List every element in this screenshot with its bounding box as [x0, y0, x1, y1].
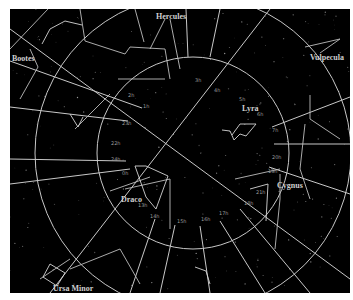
hour-label: 7h [272, 127, 278, 133]
constellation-figures [42, 21, 268, 286]
right-ascension-grid [10, 9, 350, 293]
bootes-figure [70, 114, 83, 127]
hour-label: 18h [244, 200, 254, 206]
hour-label: 23h [122, 120, 132, 126]
hour-label: 0h [122, 170, 128, 176]
lyra-figure [222, 124, 256, 140]
hour-label: 1h [143, 103, 149, 109]
hercules-figure [42, 21, 82, 44]
constellation-boundaries [10, 9, 340, 284]
hour-label: 5h [239, 96, 245, 102]
hour-label: 4h [214, 87, 220, 93]
hour-label: 17h [219, 210, 229, 216]
constellation-label-lyra: Lyra [242, 104, 258, 113]
star-field [10, 9, 349, 289]
constellation-label-vulpecula: Vulpecula [310, 53, 344, 62]
hour-label: 21h [256, 189, 266, 195]
hour-label: 20h [272, 154, 282, 160]
declination-grid [10, 9, 350, 293]
hour-label: 16h [201, 216, 211, 222]
hour-label: 22h [111, 140, 121, 146]
hour-label: 19h [268, 168, 278, 174]
constellation-label-draco: Draco [121, 195, 142, 204]
hour-label: 2h [128, 92, 134, 98]
hour-label: 14h [150, 213, 160, 219]
constellation-label-bootes: Bootes [12, 54, 35, 63]
star-chart[interactable]: 2h1h23h22h24h0h3h4h5h6h7h20h19h21h18h17h… [10, 9, 350, 293]
constellation-label-hercules: Hercules [156, 12, 186, 21]
hour-label: 24h [111, 156, 121, 162]
sky-map-canvas[interactable]: 2h1h23h22h24h0h3h4h5h6h7h20h19h21h18h17h… [10, 9, 350, 293]
constellation-label-ursa-minor: Ursa Minor [53, 284, 94, 293]
hour-label: 3h [195, 77, 201, 83]
hour-label: 15h [177, 218, 187, 224]
constellation-label-cygnus: Cygnus [277, 181, 303, 190]
misc-figure [195, 267, 210, 284]
